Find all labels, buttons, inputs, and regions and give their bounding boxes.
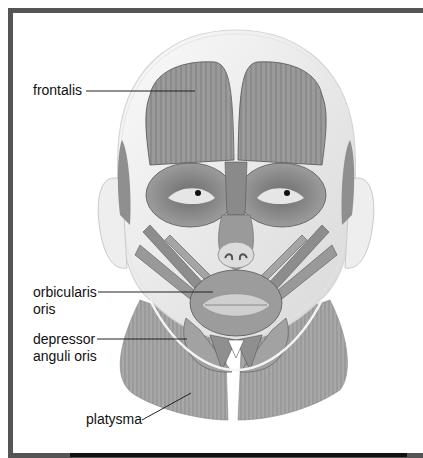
label-platysma: platysma [86, 411, 142, 428]
label-platysma-text: platysma [86, 411, 142, 427]
orbicularis-oris-muscle [190, 270, 282, 336]
label-depressor-anguli-oris-line1: depressor [33, 331, 97, 348]
label-frontalis: frontalis [33, 82, 82, 99]
label-orbicularis-oris-line2: oris [33, 301, 97, 318]
label-orbicularis-oris: orbicularis oris [33, 284, 97, 318]
label-frontalis-text: frontalis [33, 82, 82, 98]
label-depressor-anguli-oris-line2: anguli oris [33, 348, 97, 365]
label-depressor-anguli-oris: depressor anguli oris [33, 331, 97, 365]
label-orbicularis-oris-line1: orbicularis [33, 284, 97, 301]
